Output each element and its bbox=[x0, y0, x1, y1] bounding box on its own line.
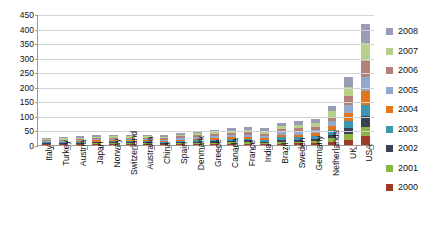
bar-column-norway[interactable] bbox=[105, 15, 122, 145]
stacked-bar bbox=[361, 24, 370, 145]
y-axis-tickmark bbox=[35, 15, 38, 16]
x-axis-label-cell: Australia bbox=[138, 151, 155, 235]
x-axis-label-usa: USA bbox=[365, 144, 374, 161]
y-axis-tick-label: 200 bbox=[20, 84, 34, 92]
legend-item-2000[interactable]: 2000 bbox=[386, 178, 440, 198]
x-axis-label-cell: India bbox=[256, 151, 273, 235]
legend-swatch-icon bbox=[386, 48, 393, 55]
legend-label: 2007 bbox=[398, 47, 418, 56]
legend-label: 2004 bbox=[398, 105, 418, 114]
legend-swatch-icon bbox=[386, 67, 393, 74]
legend-label: 2000 bbox=[398, 183, 418, 192]
bar-column-india[interactable] bbox=[256, 15, 273, 145]
legend-swatch-icon bbox=[386, 87, 393, 94]
x-axis-label-cell: Italy bbox=[37, 151, 54, 235]
x-axis-label-cell: Japan bbox=[88, 151, 105, 235]
bar-segment-2003 bbox=[361, 105, 370, 117]
x-axis-label-cell: Greece bbox=[205, 151, 222, 235]
y-axis-tick-label: 400 bbox=[20, 26, 34, 34]
bar-column-austria[interactable] bbox=[72, 15, 89, 145]
y-axis-tickmark bbox=[35, 73, 38, 74]
legend-item-2003[interactable]: 2003 bbox=[386, 120, 440, 140]
y-axis-tick-label: 300 bbox=[20, 55, 34, 63]
x-axis-label-cell: USA bbox=[357, 151, 374, 235]
bar-column-sweden[interactable] bbox=[290, 15, 307, 145]
legend-item-2001[interactable]: 2001 bbox=[386, 159, 440, 179]
legend-item-2005[interactable]: 2005 bbox=[386, 81, 440, 101]
gridline bbox=[38, 30, 374, 31]
bar-column-france[interactable] bbox=[240, 15, 257, 145]
gridline bbox=[38, 88, 374, 89]
x-axis-label-cell: Brazil bbox=[273, 151, 290, 235]
y-axis-tick-label: 100 bbox=[20, 113, 34, 121]
x-axis-label-cell: Canada bbox=[222, 151, 239, 235]
bar-segment-2000 bbox=[344, 140, 353, 145]
bar-column-italy[interactable] bbox=[38, 15, 55, 145]
chart-plot-area: 450400350300250200150100500 ItalyTurkeyA… bbox=[0, 0, 378, 239]
legend-item-2007[interactable]: 2007 bbox=[386, 42, 440, 62]
bar-column-australia[interactable] bbox=[139, 15, 156, 145]
bar-segment-2005 bbox=[361, 77, 370, 92]
legend-label: 2002 bbox=[398, 144, 418, 153]
y-axis-tick-label: 0 bbox=[29, 142, 34, 150]
chart-screenshot: 450400350300250200150100500 ItalyTurkeyA… bbox=[0, 0, 440, 239]
x-axis-label-cell: Switzerland bbox=[121, 151, 138, 235]
plot-canvas bbox=[37, 15, 374, 146]
stacked-bar bbox=[260, 128, 269, 145]
y-axis-tick-label: 450 bbox=[20, 11, 34, 19]
x-axis-label-cell: Sweden bbox=[290, 151, 307, 235]
x-axis-label-cell: Austria bbox=[71, 151, 88, 235]
bar-column-usa[interactable] bbox=[357, 15, 374, 145]
x-axis-labels: ItalyTurkeyAustriaJapanNorwaySwitzerland… bbox=[37, 151, 374, 235]
bar-column-netherlands[interactable] bbox=[324, 15, 341, 145]
bar-column-germany[interactable] bbox=[307, 15, 324, 145]
legend-label: 2003 bbox=[398, 125, 418, 134]
x-axis-label-cell: France bbox=[239, 151, 256, 235]
y-axis-tickmark bbox=[35, 117, 38, 118]
chart-legend: 200820072006200520042003200220012000 bbox=[386, 22, 440, 198]
y-axis-tick-label: 350 bbox=[20, 40, 34, 48]
bar-segment-2006 bbox=[361, 61, 370, 77]
x-axis-label-cell: Netherlands bbox=[323, 151, 340, 235]
y-axis-tick-label: 250 bbox=[20, 69, 34, 77]
y-axis-tickmark bbox=[35, 131, 38, 132]
bar-column-greece[interactable] bbox=[206, 15, 223, 145]
bar-column-spain[interactable] bbox=[172, 15, 189, 145]
x-axis-label-cell: Turkey bbox=[54, 151, 71, 235]
y-axis-tick-label: 50 bbox=[25, 127, 34, 135]
bar-column-switzerland[interactable] bbox=[122, 15, 139, 145]
legend-item-2008[interactable]: 2008 bbox=[386, 22, 440, 42]
bar-column-turkey[interactable] bbox=[55, 15, 72, 145]
legend-label: 2006 bbox=[398, 66, 418, 75]
legend-swatch-icon bbox=[386, 145, 393, 152]
gridline bbox=[38, 117, 374, 118]
legend-label: 2005 bbox=[398, 86, 418, 95]
legend-item-2006[interactable]: 2006 bbox=[386, 61, 440, 81]
x-axis-label-cell: China bbox=[155, 151, 172, 235]
y-axis: 450400350300250200150100500 bbox=[4, 11, 34, 151]
x-axis-label-cell: Germany bbox=[307, 151, 324, 235]
bar-series-group bbox=[38, 15, 374, 145]
y-axis-tick-label: 150 bbox=[20, 98, 34, 106]
bar-segment-2003 bbox=[344, 121, 353, 128]
legend-swatch-icon bbox=[386, 126, 393, 133]
bar-column-brazil[interactable] bbox=[273, 15, 290, 145]
legend-item-2002[interactable]: 2002 bbox=[386, 139, 440, 159]
bar-column-uk[interactable] bbox=[340, 15, 357, 145]
legend-swatch-icon bbox=[386, 165, 393, 172]
bar-segment-2006 bbox=[344, 96, 353, 105]
bar-segment-2008 bbox=[344, 77, 353, 87]
y-axis-tickmark bbox=[35, 102, 38, 103]
legend-item-2004[interactable]: 2004 bbox=[386, 100, 440, 120]
legend-swatch-icon bbox=[386, 184, 393, 191]
x-axis-label-cell: UK bbox=[340, 151, 357, 235]
bar-column-china[interactable] bbox=[156, 15, 173, 145]
legend-swatch-icon bbox=[386, 28, 393, 35]
y-axis-tickmark bbox=[35, 44, 38, 45]
bar-column-japan[interactable] bbox=[88, 15, 105, 145]
gridline bbox=[38, 73, 374, 74]
bar-column-denmark[interactable] bbox=[189, 15, 206, 145]
y-axis-tickmark bbox=[35, 59, 38, 60]
y-axis-tickmark bbox=[35, 88, 38, 89]
bar-column-canada[interactable] bbox=[223, 15, 240, 145]
